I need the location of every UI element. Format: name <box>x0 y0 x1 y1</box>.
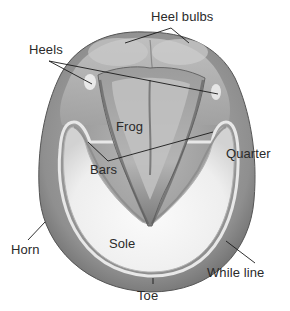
heel-right-highlight <box>211 84 221 100</box>
heel-left-highlight <box>84 74 96 90</box>
label-horn: Horn <box>11 243 40 256</box>
label-heel-bulbs: Heel bulbs <box>151 10 213 23</box>
leader-horn <box>28 222 45 240</box>
label-while-line: While line <box>207 266 264 279</box>
label-frog: Frog <box>116 120 143 133</box>
label-quarter: Quarter <box>226 147 271 160</box>
heel-bulb-right <box>152 39 208 65</box>
label-bars: Bars <box>90 163 117 176</box>
frog-central-sulcus <box>149 80 150 175</box>
label-toe: Toe <box>137 289 158 302</box>
hoof-diagram: Heel bulbs Heels Frog Quarter Bars Horn … <box>0 0 290 311</box>
label-sole: Sole <box>109 237 135 250</box>
heel-bulb-left <box>88 38 148 66</box>
label-heels: Heels <box>29 43 63 56</box>
